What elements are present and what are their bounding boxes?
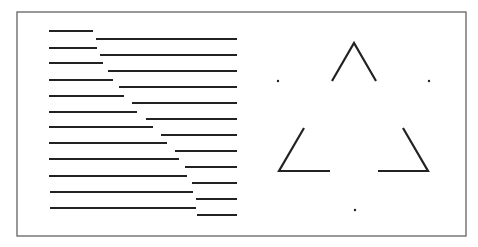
figure-frame bbox=[17, 12, 466, 236]
illusory-triangle-panel bbox=[277, 43, 430, 211]
bottom-dot bbox=[354, 209, 356, 211]
bottom-left-corner bbox=[279, 128, 330, 171]
left-dot bbox=[277, 80, 279, 82]
figure-canvas bbox=[0, 0, 478, 247]
right-dot bbox=[428, 80, 430, 82]
top-corner bbox=[332, 43, 376, 81]
illusion-figure bbox=[0, 0, 478, 247]
bottom-right-corner bbox=[378, 128, 428, 171]
offset-lines-panel bbox=[49, 31, 237, 215]
